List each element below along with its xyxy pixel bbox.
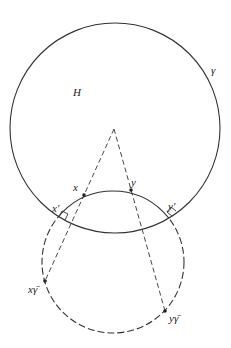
label-y-gamma-bar: yγ̄ <box>168 312 181 324</box>
point-y <box>129 188 133 192</box>
label-x: x <box>72 181 78 193</box>
small-circle-dashed-arc <box>42 191 184 333</box>
label-gamma: γ <box>211 64 216 76</box>
small-circle-solid-arc <box>42 191 184 333</box>
label-region-h: H <box>72 86 82 98</box>
label-y: y <box>130 176 136 188</box>
label-y-prime: y′ <box>167 200 176 212</box>
point-x <box>82 193 86 197</box>
right-angle-marker-x-prime <box>59 211 68 220</box>
label-x-prime: x′ <box>51 202 60 214</box>
point-y-gamma-bar <box>163 309 167 313</box>
point-x-gamma-bar <box>43 279 47 283</box>
label-x-gamma-bar: xγ̄ <box>27 283 40 295</box>
dashed-ray-to-y-gamma-bar <box>114 129 165 311</box>
big-circle-gamma <box>10 23 220 233</box>
diagram-canvas: H γ x y x′ y′ xγ̄ yγ̄ <box>0 0 231 348</box>
